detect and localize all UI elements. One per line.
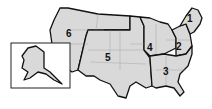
us-regions-map: 1 2 3 4 5 6: [0, 0, 212, 109]
region-4[interactable]: [140, 17, 176, 56]
region-label-6: 6: [66, 28, 72, 39]
region-label-5: 5: [105, 52, 111, 63]
region-label-2: 2: [176, 41, 182, 52]
region-label-4: 4: [147, 42, 153, 53]
region-label-3: 3: [163, 66, 169, 77]
region-label-1: 1: [187, 13, 193, 24]
